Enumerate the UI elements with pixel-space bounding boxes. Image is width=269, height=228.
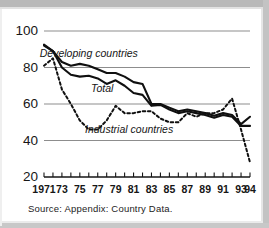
x-tick-label-77: 77 [92,183,104,195]
x-tick-label-73: 73 [56,183,68,195]
chart-svg: 10080604020 1971737577798183858789919394… [0,9,261,221]
page-frame-right-inner-edge [261,9,263,228]
x-tick-label-75: 75 [74,183,86,195]
x-tick-label-81: 81 [128,183,140,195]
page-frame-bottom-inner-edge [0,221,263,223]
x-tick-label-1971: 1971 [32,183,56,195]
x-tick-label-91: 91 [217,183,229,195]
x-tick-label-87: 87 [181,183,193,195]
y-tick-label-20: 20 [23,169,38,184]
page-frame-bottom-edge [0,223,269,228]
annotation-total: Total [91,82,114,94]
y-tick-label-group: 10080604020 [15,23,38,184]
y-tick-label-80: 80 [23,60,38,75]
annotation-developing-countries: Developing countries [40,47,139,59]
annotation-industrial-countries: Industrial countries [85,123,174,135]
x-tick-label-94: 94 [244,183,256,195]
page-frame-top-edge [0,0,269,7]
series-line-industrial-countries [44,58,250,162]
y-tick-label-60: 60 [23,96,38,111]
x-tick-label-79: 79 [110,183,122,195]
x-tick-label-83: 83 [146,183,158,195]
source-caption: Source: Appendix: Country Data. [28,203,173,214]
page-frame-right-edge [263,0,269,228]
x-tick-label-85: 85 [164,183,176,195]
x-tick-label-89: 89 [199,183,211,195]
figure-page: 10080604020 1971737577798183858789919394… [0,0,269,228]
y-tick-label-100: 100 [15,23,38,38]
line-chart: 10080604020 1971737577798183858789919394… [0,9,261,221]
y-tick-label-40: 40 [23,133,38,148]
x-tick-label-group: 1971737577798183858789919394 [32,183,256,195]
